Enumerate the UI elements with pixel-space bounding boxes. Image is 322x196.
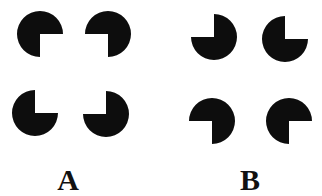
pacman-inducer-top-left — [191, 14, 237, 60]
pacman-inducer-top-right — [262, 16, 308, 62]
pacman-inducer-bottom-right — [266, 98, 312, 144]
panel-a — [12, 11, 131, 137]
pacman-inducer-bottom-right — [83, 91, 129, 137]
kanizsa-square-figure: A B — [0, 0, 322, 196]
pacman-inducer-bottom-left — [12, 90, 58, 136]
panel-b — [189, 14, 312, 144]
panel-a-label: A — [57, 163, 79, 196]
pacman-inducer-top-left — [17, 11, 63, 57]
panel-b-label: B — [240, 163, 260, 196]
pacman-inducer-bottom-left — [189, 98, 235, 144]
pacman-inducer-top-right — [85, 11, 131, 57]
figure-canvas: A B — [0, 0, 322, 196]
